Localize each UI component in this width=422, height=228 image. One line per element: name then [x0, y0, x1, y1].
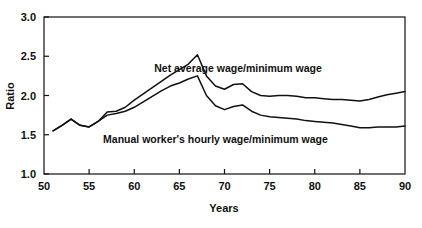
- y-axis-title: Ratio: [4, 82, 16, 110]
- x-axis-tick-labels: 505560657075808590: [38, 180, 411, 192]
- x-tick-label: 70: [218, 180, 230, 192]
- x-axis-title: Years: [209, 202, 238, 214]
- y-axis-tickmarks: [44, 17, 49, 174]
- y-tick-label: 2.5: [21, 50, 36, 62]
- x-tick-label: 55: [83, 180, 95, 192]
- x-tick-label: 90: [399, 180, 411, 192]
- y-tick-label: 1.5: [21, 129, 36, 141]
- x-axis-tickmarks: [89, 169, 360, 174]
- x-tick-label: 60: [128, 180, 140, 192]
- x-tick-label: 65: [173, 180, 185, 192]
- series-line-manual-worker-hourly-wage: [53, 76, 405, 131]
- plot-frame: [44, 17, 405, 174]
- line-chart: 1.01.52.02.53.0 505560657075808590 Ratio…: [0, 0, 422, 228]
- y-tick-label: 1.0: [21, 168, 36, 180]
- y-axis-tick-labels: 1.01.52.02.53.0: [21, 11, 36, 180]
- x-tick-label: 75: [264, 180, 276, 192]
- y-tick-label: 2.0: [21, 90, 36, 102]
- x-tick-label: 85: [354, 180, 366, 192]
- series-label-manual-worker-hourly-wage: Manual worker's hourly wage/minimum wage: [103, 133, 328, 145]
- x-tick-label: 80: [309, 180, 321, 192]
- chart-figure: 1.01.52.02.53.0 505560657075808590 Ratio…: [0, 0, 422, 228]
- series-label-net-average-wage: Net average wage/minimum wage: [154, 62, 322, 74]
- x-tick-label: 50: [38, 180, 50, 192]
- y-tick-label: 3.0: [21, 11, 36, 23]
